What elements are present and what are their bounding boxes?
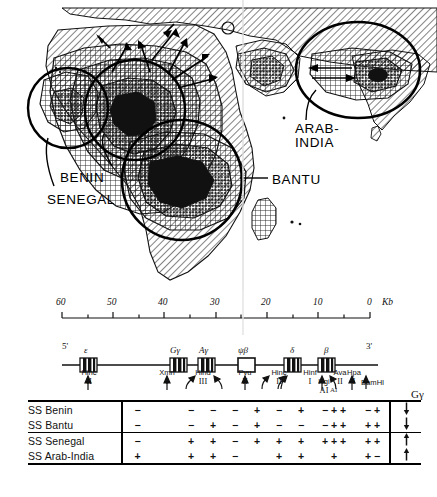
scale-tick-40: 40 xyxy=(158,297,168,307)
table-header-g-gamma: Gγ xyxy=(411,388,424,400)
scale-tick-30: 30 xyxy=(210,297,220,307)
enzyme-name: Hinc xyxy=(72,368,106,377)
table-row-ss-bantu[interactable]: SS Bantu − − + − + − − − + + + + xyxy=(28,417,421,433)
gene-map-5-prime-label: 5' xyxy=(62,341,68,351)
cell-benin-c7: − xyxy=(268,401,290,417)
arrow-up-icon xyxy=(402,448,411,461)
enzyme-roman: II xyxy=(229,377,261,387)
cell-senegal-c7: + xyxy=(268,433,290,449)
cell-senegal-c5: − xyxy=(224,433,246,449)
cell-bantu-c8: − xyxy=(290,417,312,433)
scale-tick-50: 50 xyxy=(107,297,117,307)
enzyme-xmn1: Xmn I xyxy=(151,368,183,387)
cell-benin-c5: − xyxy=(224,401,246,417)
cell-senegal-c1: − xyxy=(122,433,152,449)
cell-senegal-c9: + + + xyxy=(312,433,356,449)
enzyme-roman: HI xyxy=(377,378,385,387)
arrow-down-icon xyxy=(402,417,411,430)
cell-benin-c1: − xyxy=(122,401,152,417)
arrow-down-icon xyxy=(402,402,411,415)
gene-label-a-gamma: Aγ xyxy=(199,345,208,355)
enzyme-name: Hinc xyxy=(262,368,296,377)
gene-label-epsilon: ε xyxy=(84,345,88,355)
table-row-ss-arab-india[interactable]: SS Arab-India + + + − + + + + − xyxy=(28,448,421,464)
gene-label-psi-beta: ψβ xyxy=(238,345,248,355)
cell-benin-c10: − + xyxy=(356,401,390,417)
enzyme-hinc2-b: Hinc II xyxy=(262,368,296,387)
cell-bantu-c3: − xyxy=(180,417,202,433)
cell-senegal-gamma-arrow xyxy=(390,433,421,449)
cell-benin-gamma-arrow xyxy=(390,401,421,417)
scale-tick-60: 60 xyxy=(56,297,66,307)
cell-bantu-c2 xyxy=(152,417,180,433)
cell-arabindia-c8: + xyxy=(290,448,312,464)
cell-bantu-c10: + + xyxy=(356,417,390,433)
enzyme-bamhi: BamHI xyxy=(361,378,384,387)
cell-benin-c2 xyxy=(152,401,180,417)
gene-map-3-prime-label: 3' xyxy=(366,341,372,351)
enzyme-hinc2-a: Hinc II xyxy=(72,368,106,387)
haplotype-table-panel: Gγ AΙ SS Benin − − − − + − + − + + − + xyxy=(28,400,411,472)
figure-root: BENIN SENEGAL BANTU ARAB- INDIA xyxy=(0,0,437,497)
scale-tick-0: 0 xyxy=(367,297,372,307)
cell-senegal-c3: + xyxy=(180,433,202,449)
cell-bantu-c5: − xyxy=(224,417,246,433)
enzyme-pvu2: Pvu II xyxy=(229,368,261,387)
cell-senegal-c10: + + xyxy=(356,433,390,449)
map-label-arab-line2: INDIA xyxy=(295,135,334,150)
enzyme-name: Pvu xyxy=(229,368,261,377)
cell-arabindia-c4: + xyxy=(202,448,224,464)
cell-bantu-gamma-arrow xyxy=(390,417,421,433)
cell-arabindia-c2 xyxy=(152,448,180,464)
map-panel: BENIN SENEGAL BANTU ARAB- INDIA xyxy=(0,0,437,290)
map-landmasses xyxy=(28,0,437,290)
landmass-srilanka xyxy=(371,126,381,141)
cell-arabindia-c10: + − xyxy=(356,448,390,464)
world-map-svg xyxy=(0,0,437,290)
enzyme-name: Hinf xyxy=(296,368,324,377)
map-label-arab-india: ARAB- INDIA xyxy=(295,122,339,150)
cell-senegal-c2 xyxy=(152,433,180,449)
cell-arabindia-c9: + xyxy=(312,448,356,464)
scale-panel: 60 50 40 30 20 10 0 Kb xyxy=(0,290,437,335)
table-row-ss-benin[interactable]: SS Benin − − − − + − + − + + − + xyxy=(28,401,421,417)
cell-arabindia-c6 xyxy=(246,448,268,464)
cell-bantu-c7: − xyxy=(268,417,290,433)
enzyme-roman: I xyxy=(151,377,183,387)
enzyme-name: Hind xyxy=(187,368,219,377)
row-label-ss-arab-india: SS Arab-India xyxy=(28,448,122,464)
map-label-arab-line1: ARAB- xyxy=(295,121,339,136)
enzyme-name: Bam xyxy=(361,378,377,387)
cell-arabindia-c1: + xyxy=(122,448,152,464)
scale-tick-10: 10 xyxy=(313,297,323,307)
gene-label-delta: δ xyxy=(290,345,294,355)
cell-arabindia-c3: + xyxy=(180,448,202,464)
map-label-bantu: BANTU xyxy=(272,172,321,187)
map-label-benin: BENIN xyxy=(60,170,104,185)
table-row-ss-senegal[interactable]: SS Senegal − + + − + + + + + + + + xyxy=(28,433,421,449)
enzyme-roman: III xyxy=(187,377,219,387)
cell-arabindia-c5: − xyxy=(224,448,246,464)
landmass-madagascar xyxy=(252,198,276,240)
enzyme-name: Hpa xyxy=(341,368,367,377)
scale-unit-label: Kb xyxy=(382,297,393,307)
cell-arabindia-c7: + xyxy=(268,448,290,464)
enzyme-roman: II xyxy=(262,377,296,387)
scale-tick-20: 20 xyxy=(261,297,271,307)
map-label-senegal: SENEGAL xyxy=(47,192,115,207)
enzyme-roman: II xyxy=(72,377,106,387)
gene-label-beta: β xyxy=(324,345,328,355)
enzyme-label-panel: Hinc II Xmn I Hind III Pvu II Hinc II Hi… xyxy=(0,368,437,400)
cell-bantu-c4: + xyxy=(202,417,224,433)
enzyme-name: Xmn xyxy=(151,368,183,377)
table-header-al: AΙ xyxy=(330,386,337,394)
cell-bantu-c1: − xyxy=(122,417,152,433)
cell-bantu-c9: − + + xyxy=(312,417,356,433)
cell-benin-c3: − xyxy=(180,401,202,417)
cell-senegal-c8: + xyxy=(290,433,312,449)
cell-senegal-c6: + xyxy=(246,433,268,449)
cell-bantu-c6: + xyxy=(246,417,268,433)
cell-benin-c4: − xyxy=(202,401,224,417)
enzyme-hind3: Hind III xyxy=(187,368,219,387)
haplotype-table: SS Benin − − − − + − + − + + − + xyxy=(28,400,421,465)
